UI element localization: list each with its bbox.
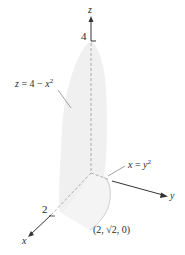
eq1-exp: 2 <box>50 77 54 85</box>
leader-base-curve <box>108 166 125 176</box>
x-axis-label: x <box>22 236 26 246</box>
parabolic-cylinder-equation: z = 4 − x2 <box>15 78 53 89</box>
solid-region-diagram <box>0 0 185 255</box>
eq1-rhs: = 4 − <box>21 78 45 89</box>
y-axis <box>112 181 163 195</box>
x-axis <box>31 215 51 234</box>
point-label: (2, √2, 0) <box>93 225 130 235</box>
eq2-exp: 2 <box>148 158 152 166</box>
x-tick-label: 2 <box>42 204 48 215</box>
y-axis-arrowhead <box>160 193 168 199</box>
eq1-lhs: z <box>15 78 19 89</box>
eq2-rhs: = <box>135 159 143 170</box>
z-tick-label: 4 <box>81 31 87 42</box>
base-curve-equation: x = y2 <box>128 159 151 170</box>
eq2-lhs: x <box>128 159 132 170</box>
z-axis-arrowhead <box>89 16 94 22</box>
y-axis-label: y <box>170 191 174 201</box>
z-axis-label: z <box>88 5 92 15</box>
